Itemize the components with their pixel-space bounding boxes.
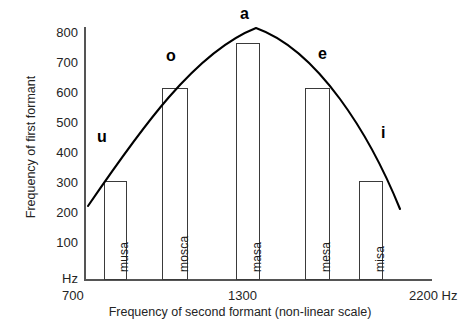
bar-label-masa: masa	[250, 242, 264, 272]
y-tick-500: 500	[32, 116, 78, 129]
y-tick-800: 800	[32, 26, 78, 39]
y-tick-100: 100	[32, 236, 78, 249]
vowel-label-i: i	[381, 124, 385, 142]
x-tick-1300: 1300	[228, 288, 257, 303]
y-tick-200: 200	[32, 206, 78, 219]
bar-label-mosca: mosca	[177, 236, 191, 272]
vowel-formant-chart: Frequency of first formant 800 700 600 5…	[0, 0, 476, 329]
x-axis-title: Frequency of second formant (non-linear …	[60, 305, 420, 319]
x-tick-2200: 2200 Hz	[409, 288, 457, 303]
y-tick-700: 700	[32, 56, 78, 69]
vowel-label-a: a	[240, 5, 249, 23]
vowel-label-e: e	[318, 45, 327, 63]
y-tick-300: 300	[32, 176, 78, 189]
bar-label-mesa: mesa	[319, 242, 333, 272]
y-axis-tick-labels: 800 700 600 500 400 300 200 100 Hz	[28, 0, 78, 329]
vowel-label-o: o	[166, 47, 176, 65]
y-tick-600: 600	[32, 86, 78, 99]
y-axis-unit-label: Hz	[32, 272, 78, 285]
bar-label-misa: misa	[373, 246, 387, 272]
y-tick-400: 400	[32, 146, 78, 159]
x-tick-700: 700	[62, 288, 84, 303]
vowel-label-u: u	[97, 128, 107, 146]
y-axis-line	[84, 27, 86, 281]
bar-label-musa: musa	[117, 242, 131, 272]
